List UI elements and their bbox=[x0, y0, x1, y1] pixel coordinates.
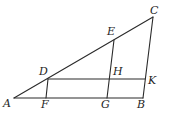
point-label-g: G bbox=[101, 98, 110, 111]
point-label-d: D bbox=[38, 65, 48, 78]
point-label-b: B bbox=[136, 98, 145, 111]
point-label-f: F bbox=[40, 98, 49, 111]
segment-DF bbox=[46, 79, 48, 98]
triangle-diagram: ABCDEFGHK bbox=[0, 0, 170, 129]
point-label-c: C bbox=[150, 4, 159, 17]
segments-group bbox=[14, 17, 153, 98]
point-label-k: K bbox=[147, 74, 157, 87]
point-label-e: E bbox=[106, 25, 115, 38]
segment-AC bbox=[14, 17, 153, 98]
labels-group: ABCDEFGHK bbox=[2, 4, 159, 111]
point-label-a: A bbox=[2, 97, 11, 110]
point-label-h: H bbox=[112, 65, 123, 78]
